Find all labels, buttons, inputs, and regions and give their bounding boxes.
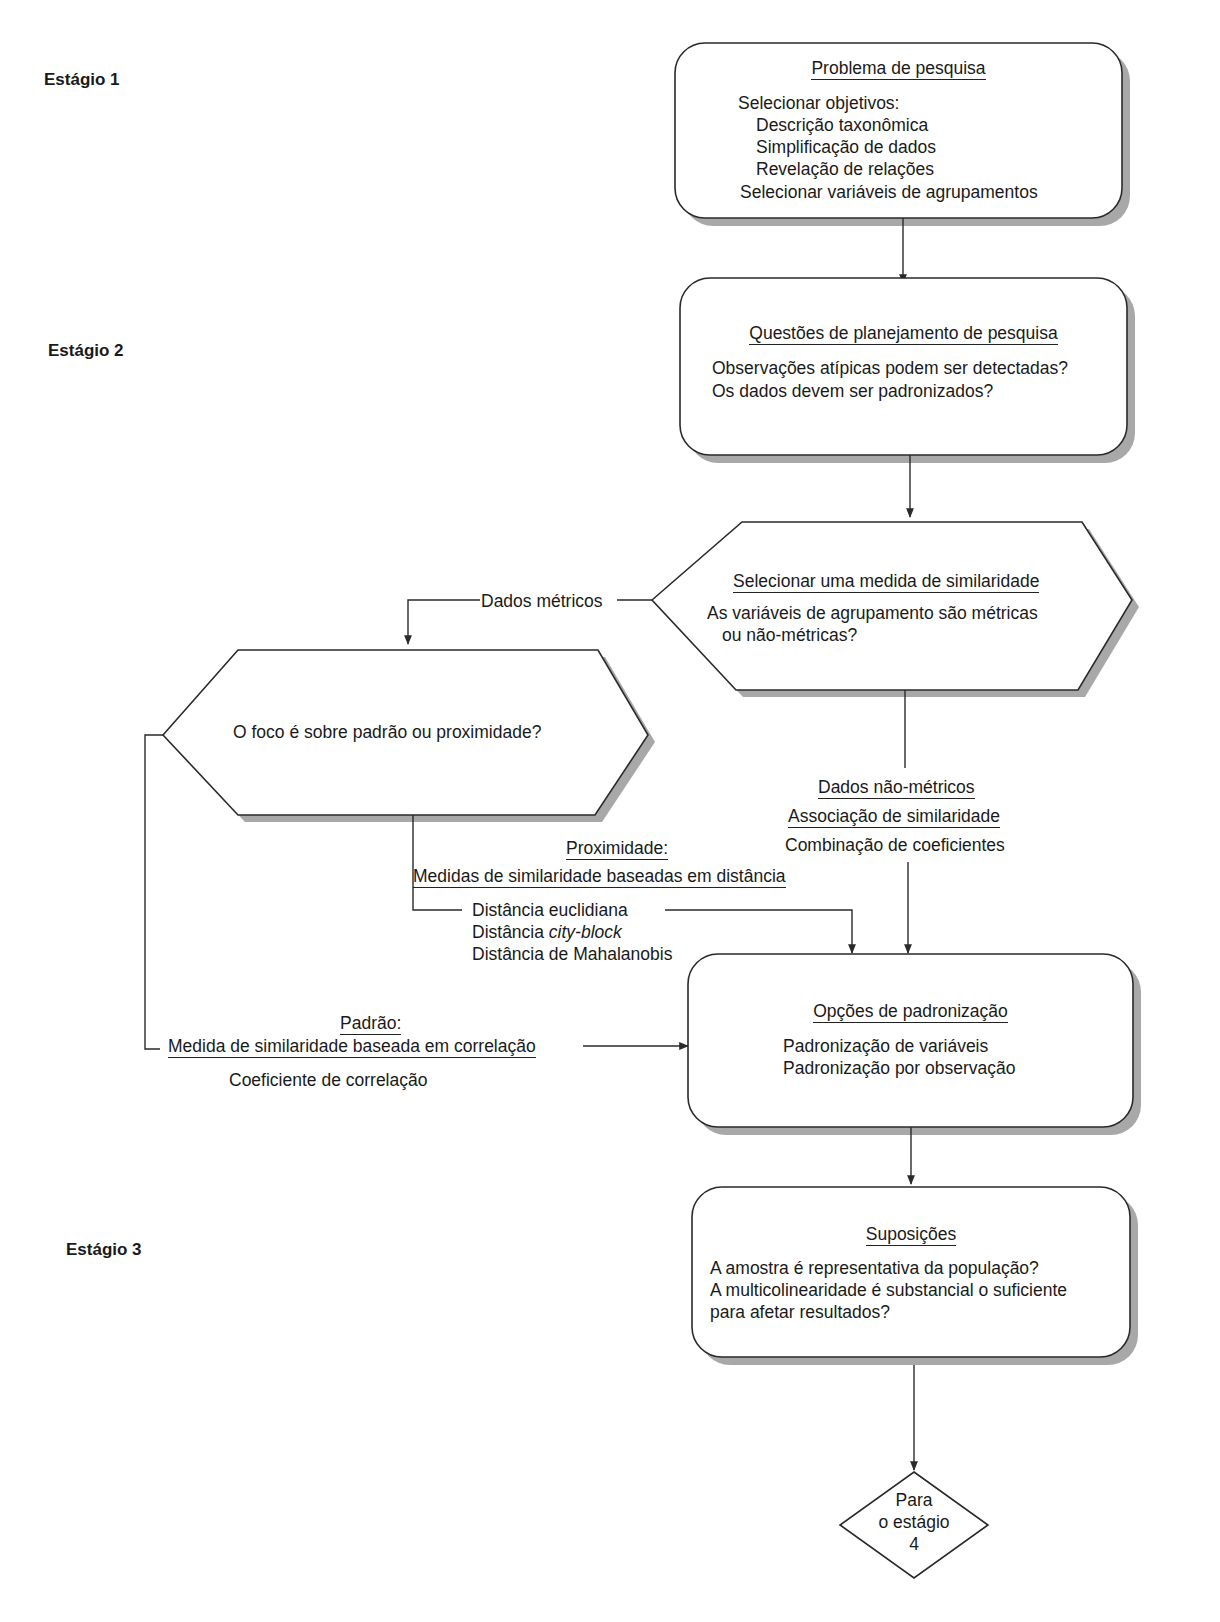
similaridade-title: Selecionar uma medida de similaridade — [733, 570, 1039, 592]
problema-title: Problema de pesquisa — [675, 57, 1122, 79]
padronizacao-line: Padronização por observação — [783, 1057, 1016, 1079]
diamond-line: Para — [854, 1489, 974, 1511]
problema-intro: Selecionar objetivos: — [738, 92, 899, 114]
proximidade-item: Distância de Mahalanobis — [472, 943, 672, 965]
edge-padrao — [145, 735, 163, 1049]
questoes-title-text: Questões de planejamento de pesquisa — [749, 323, 1057, 345]
padrao-title: Padrão: — [340, 1012, 401, 1034]
similaridade-title-text: Selecionar uma medida de similaridade — [733, 571, 1039, 593]
proximidade-item: Distância city-block — [472, 921, 622, 943]
stage-2-label: Estágio 2 — [48, 341, 124, 361]
padronizacao-title: Opções de padronização — [688, 1000, 1133, 1022]
questoes-line: Os dados devem ser padronizados? — [712, 380, 993, 402]
edge-label-dados-metricos: Dados métricos — [481, 590, 603, 612]
proximidade-item-prefix: Distância — [472, 922, 549, 942]
flowchart-canvas — [0, 0, 1220, 1622]
padronizacao-title-text: Opções de padronização — [813, 1001, 1008, 1023]
suposicoes-line: A multicolinearidade é substancial o suf… — [710, 1279, 1067, 1301]
padrao-title-text: Padrão: — [340, 1013, 401, 1035]
suposicoes-title-text: Suposições — [866, 1224, 956, 1246]
suposicoes-line: para afetar resultados? — [710, 1301, 890, 1323]
nao-metricos-sub-text: Associação de similaridade — [788, 806, 1000, 828]
proximidade-item: Distância euclidiana — [472, 899, 628, 921]
suposicoes-title: Suposições — [692, 1223, 1130, 1245]
padrao-sub: Medida de similaridade baseada em correl… — [168, 1035, 536, 1057]
nao-metricos-sub: Associação de similaridade — [788, 805, 1000, 827]
diamond-line: 4 — [854, 1533, 974, 1555]
padrao-line: Coeficiente de correlação — [229, 1069, 427, 1091]
nao-metricos-title: Dados não-métricos — [818, 776, 975, 798]
problema-title-text: Problema de pesquisa — [811, 58, 985, 80]
proximidade-sub: Medidas de similaridade baseadas em dist… — [413, 865, 786, 887]
questoes-line: Observações atípicas podem ser detectada… — [712, 357, 1068, 379]
questoes-title: Questões de planejamento de pesquisa — [680, 322, 1127, 344]
problema-footer: Selecionar variáveis de agrupamentos — [740, 181, 1038, 203]
diamond-line: o estágio — [854, 1511, 974, 1533]
proximidade-title-text: Proximidade: — [566, 838, 668, 860]
padronizacao-line: Padronização de variáveis — [783, 1035, 988, 1057]
stage-1-label: Estágio 1 — [44, 70, 120, 90]
stage-3-label: Estágio 3 — [66, 1240, 142, 1260]
similaridade-line: As variáveis de agrupamento são métricas — [707, 602, 1038, 624]
padrao-sub-text: Medida de similaridade baseada em correl… — [168, 1036, 536, 1058]
nao-metricos-line: Combinação de coeficientes — [785, 834, 1005, 856]
nao-metricos-title-text: Dados não-métricos — [818, 777, 975, 799]
foco-text: O foco é sobre padrão ou proximidade? — [233, 721, 541, 743]
proximidade-title: Proximidade: — [566, 837, 668, 859]
problema-item: Revelação de relações — [756, 158, 934, 180]
problema-item: Simplificação de dados — [756, 136, 936, 158]
proximidade-item-italic: city-block — [549, 922, 622, 942]
problema-item: Descrição taxonômica — [756, 114, 928, 136]
edge-proximidade — [413, 815, 462, 910]
suposicoes-line: A amostra é representativa da população? — [710, 1257, 1039, 1279]
proximidade-sub-text: Medidas de similaridade baseadas em dist… — [413, 866, 786, 888]
similaridade-line: ou não-métricas? — [722, 624, 857, 646]
